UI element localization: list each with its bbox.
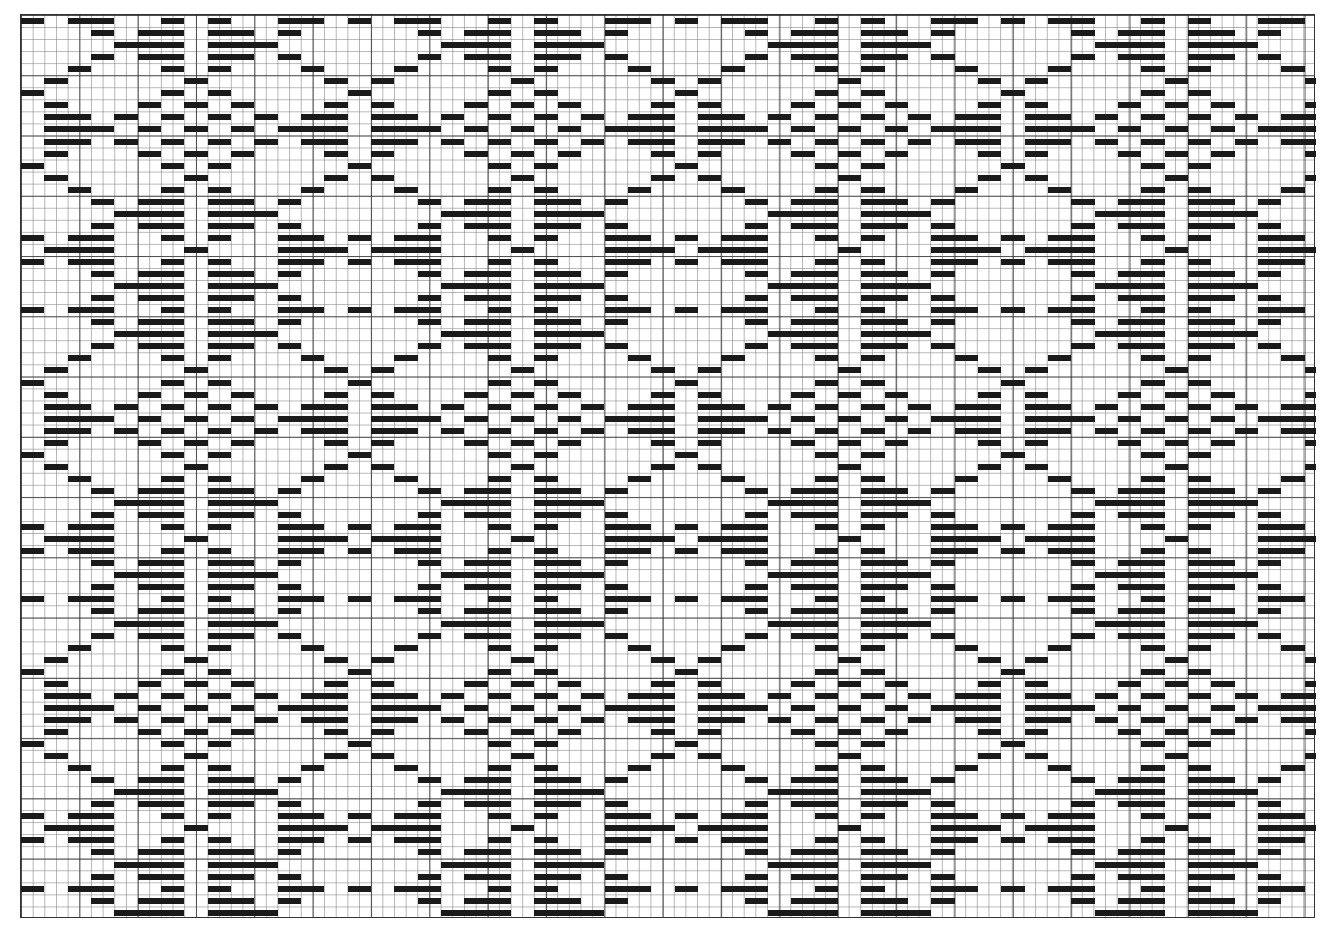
draft-cell-bar xyxy=(1258,584,1281,590)
draft-cell-bar xyxy=(1118,416,1141,422)
draft-cell-bar xyxy=(1258,30,1281,36)
draft-cell-bar xyxy=(675,669,698,675)
draft-cell-bar xyxy=(1071,898,1094,904)
draft-cell-bar xyxy=(278,319,301,325)
draft-cell-bar xyxy=(208,114,231,120)
draft-cell-bar xyxy=(68,355,91,361)
draft-cell-bar xyxy=(955,355,978,361)
draft-cell-bar xyxy=(1001,163,1024,169)
draft-cell-bar xyxy=(1071,30,1094,36)
draft-cell-bar xyxy=(1095,428,1118,434)
draft-cell-bar xyxy=(161,524,184,530)
draft-cell-bar xyxy=(1141,187,1164,193)
draft-cell-bar xyxy=(68,235,115,241)
draft-cell-bar xyxy=(675,596,698,602)
draft-cell-bar xyxy=(1281,66,1304,72)
draft-cell-bar xyxy=(605,235,652,241)
draft-cell-bar xyxy=(1095,717,1118,723)
draft-cell-bar xyxy=(721,235,768,241)
draft-cell-bar xyxy=(1188,633,1235,639)
draft-cell-bar xyxy=(931,596,978,602)
draft-cell-bar xyxy=(1235,404,1258,410)
draft-cell-bar xyxy=(488,163,511,169)
draft-cell-bar xyxy=(791,295,838,301)
draft-cell-bar xyxy=(581,428,604,434)
draft-cell-bar xyxy=(184,416,207,422)
draft-cell-bar xyxy=(114,572,184,578)
draft-cell-bar xyxy=(861,837,884,843)
draft-cell-bar xyxy=(1305,681,1317,687)
draft-cell-bar xyxy=(161,18,184,24)
draft-cell-bar xyxy=(815,548,838,554)
draft-cell-bar xyxy=(1141,259,1164,265)
draft-cell-bar xyxy=(1258,524,1305,530)
draft-cell-bar xyxy=(1141,886,1164,892)
draft-cell-bar xyxy=(464,512,511,518)
draft-cell-bar xyxy=(418,30,441,36)
draft-cell-bar xyxy=(44,416,114,422)
draft-cell-bar xyxy=(184,753,207,759)
draft-cell-bar xyxy=(1211,392,1234,398)
draft-cell-bar xyxy=(1165,681,1188,687)
draft-cell-bar xyxy=(488,596,511,602)
draft-cell-bar xyxy=(605,271,628,277)
draft-cell-bar xyxy=(278,199,301,205)
draft-cell-bar xyxy=(791,271,838,277)
draft-cell-bar xyxy=(464,54,511,60)
draft-cell-bar xyxy=(698,126,768,132)
draft-cell-bar xyxy=(68,307,115,313)
draft-cell-bar xyxy=(558,705,581,711)
draft-cell-bar xyxy=(44,657,67,663)
draft-cell-bar xyxy=(231,729,254,735)
draft-cell-bar xyxy=(511,416,534,422)
draft-cell-bar xyxy=(161,741,184,747)
draft-cell-bar xyxy=(1071,801,1094,807)
draft-cell-bar xyxy=(955,693,1002,699)
draft-cell-bar xyxy=(861,163,884,169)
draft-cell-bar xyxy=(861,910,931,916)
draft-cell-bar xyxy=(464,898,511,904)
draft-cell-bar xyxy=(1141,355,1164,361)
draft-cell-bar xyxy=(1141,524,1164,530)
draft-cell-bar xyxy=(488,476,511,482)
draft-cell-bar xyxy=(791,223,838,229)
draft-cell-bar xyxy=(534,139,557,145)
draft-cell-bar xyxy=(1118,801,1165,807)
draft-cell-bar xyxy=(301,428,348,434)
draft-cell-bar xyxy=(1165,367,1188,373)
draft-cell-bar xyxy=(91,54,114,60)
draft-cell-bar xyxy=(651,657,674,663)
draft-cell-bar xyxy=(1188,199,1235,205)
draft-cell-bar xyxy=(1141,404,1164,410)
draft-cell-bar xyxy=(208,874,255,880)
draft-cell-bar xyxy=(931,608,954,614)
draft-cell-bar xyxy=(861,717,884,723)
draft-cell-bar xyxy=(418,874,441,880)
draft-cell-bar xyxy=(184,151,207,157)
draft-cell-bar xyxy=(628,428,675,434)
draft-cell-bar xyxy=(1048,548,1095,554)
draft-cell-bar xyxy=(208,886,231,892)
draft-cell-bar xyxy=(534,596,557,602)
draft-cell-bar xyxy=(161,452,184,458)
draft-cell-bar xyxy=(1188,898,1235,904)
draft-cell-bar xyxy=(511,825,534,831)
draft-cell-bar xyxy=(1048,837,1095,843)
draft-cell-bar xyxy=(558,126,581,132)
draft-cell-bar xyxy=(161,813,184,819)
draft-cell-bar xyxy=(324,151,347,157)
draft-cell-bar xyxy=(1258,801,1281,807)
draft-cell-bar xyxy=(231,681,254,687)
draft-cell-bar xyxy=(978,440,1001,446)
draft-cell-bar xyxy=(278,30,301,36)
draft-cell-bar xyxy=(418,199,441,205)
draft-cell-bar xyxy=(1188,271,1235,277)
draft-cell-bar xyxy=(464,319,511,325)
draft-cell-bar xyxy=(1118,440,1141,446)
draft-cell-bar xyxy=(1188,355,1211,361)
draft-cell-bar xyxy=(931,524,978,530)
draft-cell-bar xyxy=(1141,669,1164,675)
draft-cell-bar xyxy=(441,42,511,48)
draft-cell-bar xyxy=(885,102,908,108)
draft-cell-bar xyxy=(534,693,557,699)
